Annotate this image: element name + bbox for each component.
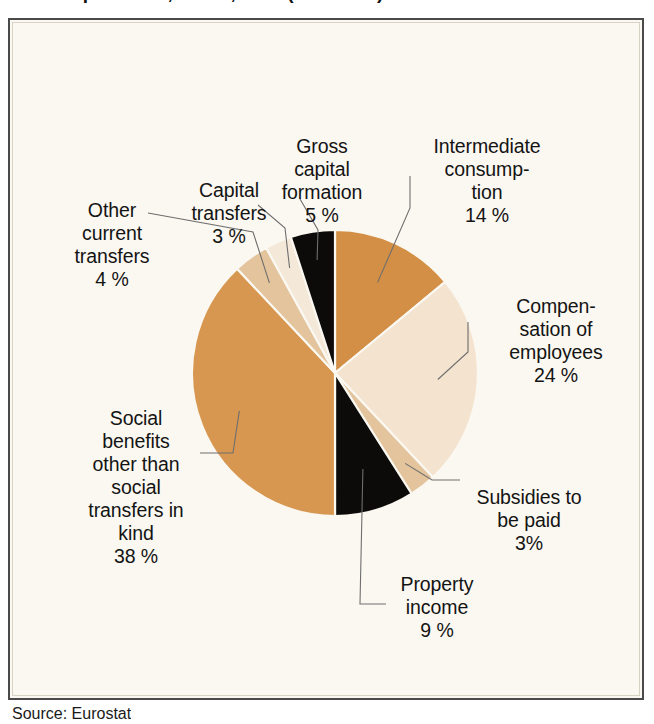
slice-value-text: 14 % <box>392 204 582 227</box>
slice-label-compensation-of-employees: Compen- sation of employees 24 % <box>468 272 644 410</box>
slice-value-text: 4 % <box>36 268 188 291</box>
page-title: Total expenditure, EU-27, 2008 (% of tot… <box>14 0 644 6</box>
slice-value-text: 9 % <box>362 619 512 642</box>
slice-label-text: Gross capital formation <box>282 135 362 203</box>
slice-value-text: 5 % <box>254 204 390 227</box>
slice-label-text: Property income <box>401 573 474 618</box>
slice-label-text: Intermediate consump- tion <box>433 135 540 203</box>
slice-label-gross-capital-formation: Gross capital formation 5 % <box>254 112 390 250</box>
slice-label-property-income: Property income 9 % <box>362 550 512 665</box>
slice-label-text: Social benefits other than social transf… <box>88 407 183 544</box>
slice-label-text: Subsidies to be paid <box>476 486 581 531</box>
slice-label-text: Other current transfers <box>75 199 150 267</box>
slice-label-text: Compen- sation of employees <box>509 295 602 363</box>
source-note: Source: Eurostat <box>12 704 131 724</box>
slice-label-social-benefits: Social benefits other than social transf… <box>48 384 224 591</box>
slice-value-text: 24 % <box>468 364 644 387</box>
slice-value-text: 38 % <box>48 545 224 568</box>
slice-label-intermediate-consumption: Intermediate consump- tion 14 % <box>392 112 582 250</box>
